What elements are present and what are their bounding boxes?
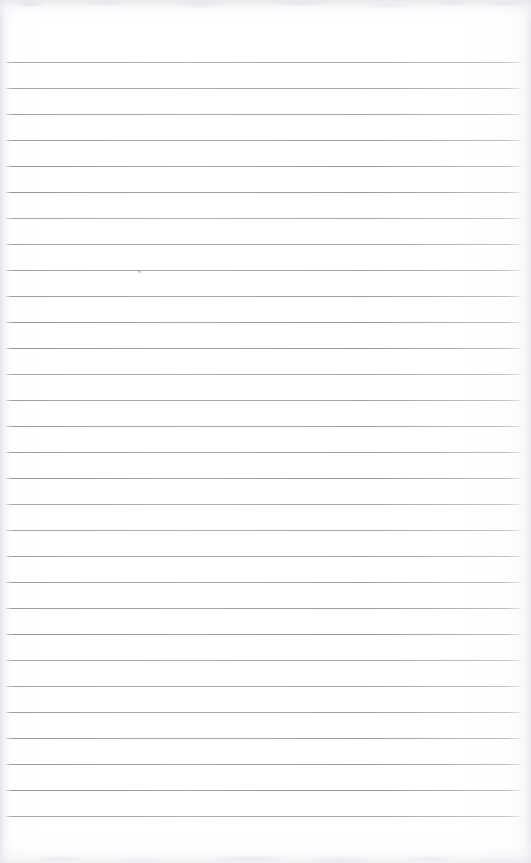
rule-line bbox=[6, 218, 521, 219]
rule-line bbox=[6, 764, 521, 765]
rule-line bbox=[6, 738, 521, 739]
rule-line bbox=[6, 478, 521, 479]
rule-line bbox=[6, 426, 521, 427]
rule-line bbox=[6, 114, 521, 115]
rule-line bbox=[6, 88, 521, 89]
rule-line bbox=[6, 556, 521, 557]
ruled-lines-group bbox=[0, 0, 531, 863]
rule-line bbox=[6, 244, 521, 245]
rule-line bbox=[6, 348, 521, 349]
stray-speck-artifact bbox=[138, 270, 141, 273]
rule-line bbox=[6, 504, 521, 505]
rule-line bbox=[6, 816, 521, 817]
rule-line bbox=[6, 374, 521, 375]
rule-line bbox=[6, 712, 521, 713]
rule-line bbox=[6, 270, 521, 271]
rule-line bbox=[6, 140, 521, 141]
rule-line bbox=[6, 296, 521, 297]
rule-line bbox=[6, 400, 521, 401]
rule-line bbox=[6, 686, 521, 687]
rule-line bbox=[6, 62, 521, 63]
rule-line bbox=[6, 634, 521, 635]
rule-line bbox=[6, 166, 521, 167]
rule-line bbox=[6, 582, 521, 583]
rule-line bbox=[6, 322, 521, 323]
rule-line bbox=[6, 452, 521, 453]
scanned-page bbox=[0, 0, 531, 863]
rule-line bbox=[6, 790, 521, 791]
rule-line bbox=[6, 608, 521, 609]
rule-line bbox=[6, 192, 521, 193]
rule-line bbox=[6, 660, 521, 661]
rule-line bbox=[6, 530, 521, 531]
